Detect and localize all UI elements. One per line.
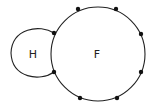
vertex [76, 7, 80, 11]
vertex-shared [52, 70, 56, 74]
region-f-label: F [94, 48, 100, 61]
diagram: H F [0, 0, 158, 106]
vertex [115, 96, 119, 100]
vertex [139, 70, 143, 74]
vertex [78, 96, 82, 100]
vertex [114, 7, 118, 11]
vertex [139, 32, 143, 36]
vertex-shared [52, 31, 56, 35]
region-h-label: H [29, 48, 37, 61]
